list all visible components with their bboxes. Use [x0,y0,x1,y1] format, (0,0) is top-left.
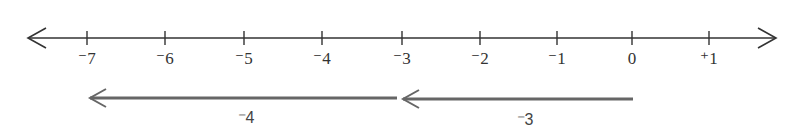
jump-label: ⁻3 [517,112,534,128]
tick-label: ⁻6 [156,50,174,67]
tick-label: ⁺1 [700,50,718,67]
tick-label: ⁻4 [313,50,331,67]
number-line [28,28,776,48]
tick-label: ⁻3 [393,50,411,67]
jump-arrows [90,89,633,108]
tick-label: 0 [628,50,637,67]
tick-label: ⁻2 [471,50,489,67]
tick-label: ⁻7 [78,50,96,67]
tick-label: ⁻1 [548,50,566,67]
tick-label: ⁻5 [235,50,253,67]
jump-label: ⁻4 [238,110,255,126]
